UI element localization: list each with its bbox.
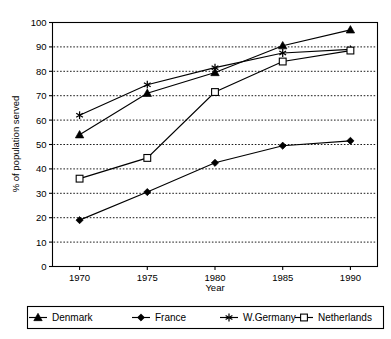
y-axis-tick-labels-group: 0102030405060708090100 [31,17,47,272]
y-axis-tick-label: 70 [36,90,47,101]
x-axis-tick-label: 1970 [69,272,90,283]
chart-canvas: 0102030405060708090100 19701975198019851… [0,0,391,339]
y-axis-tick-label: 10 [36,237,47,248]
x-axis-tick-label: 1980 [204,272,225,283]
legend-item-label: Netherlands [318,312,372,323]
data-point-marker [346,26,354,33]
legend-marker-icon [301,314,308,321]
gridlines-group [54,47,377,242]
series-line [80,49,351,115]
data-series-group [75,26,354,224]
x-axis-tick-label: 1990 [340,272,361,283]
y-axis-tick-label: 60 [36,115,47,126]
y-axis-tick-label: 80 [36,66,47,77]
data-point-marker [144,155,151,162]
y-axis-tick-label: 90 [36,41,47,52]
series-france [76,137,354,224]
x-axis-tick-label: 1985 [272,272,293,283]
x-axis-tick-label: 1975 [137,272,158,283]
data-point-marker [279,142,286,149]
series-line [80,30,351,135]
legend-item-label: Denmark [52,312,94,323]
y-axis-tick-label: 40 [36,163,47,174]
data-point-marker [212,89,219,96]
data-point-marker [211,159,218,166]
legend-item-label: France [155,312,187,323]
x-axis-tick-labels-group: 19701975198019851990 [69,272,361,283]
data-point-marker [347,47,354,54]
series-denmark [75,26,354,138]
line-chart-figure: 0102030405060708090100 19701975198019851… [0,0,391,339]
series-line [80,141,351,220]
y-axis-tick-label: 50 [36,139,47,150]
y-axis-tick-label: 100 [31,17,47,28]
data-point-marker [144,188,151,195]
x-axis-title: Year [205,282,224,293]
y-axis-title: % of population served [10,96,21,193]
y-axis-tick-label: 20 [36,212,47,223]
data-point-marker [347,137,354,144]
data-point-marker [76,175,83,182]
legend-item-label: W.Germany [243,312,296,323]
data-point-marker [144,81,151,89]
data-point-marker [76,111,83,119]
data-point-marker [279,58,286,65]
data-point-marker [75,131,83,138]
y-axis-tick-label: 30 [36,188,47,199]
y-axis-tick-label: 0 [41,261,46,272]
